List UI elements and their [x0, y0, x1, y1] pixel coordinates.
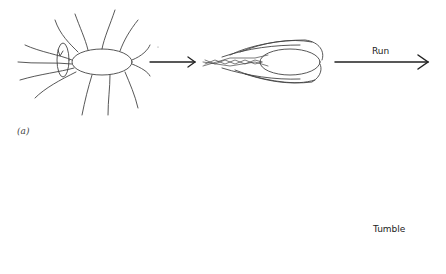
arrow-top-1 — [150, 57, 195, 67]
cell-top-bundled — [203, 40, 323, 83]
run-label: Run — [372, 46, 389, 56]
run-tumble-diagram: Run Tumble (a) — [0, 0, 446, 274]
arrow-run — [335, 55, 428, 69]
cell-top-left — [18, 10, 159, 115]
tumble-label: Tumble — [373, 224, 405, 234]
panel-label: (a) — [17, 126, 29, 136]
